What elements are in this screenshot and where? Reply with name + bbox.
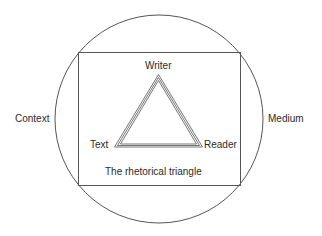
label-medium: Medium xyxy=(268,114,304,124)
label-text: Text xyxy=(90,140,108,150)
outer-circle xyxy=(55,15,263,223)
label-context: Context xyxy=(15,114,49,124)
label-reader: Reader xyxy=(204,140,237,150)
diagram-caption: The rhetorical triangle xyxy=(105,167,202,177)
label-writer: Writer xyxy=(145,61,171,71)
rhetorical-triangle xyxy=(115,75,203,148)
